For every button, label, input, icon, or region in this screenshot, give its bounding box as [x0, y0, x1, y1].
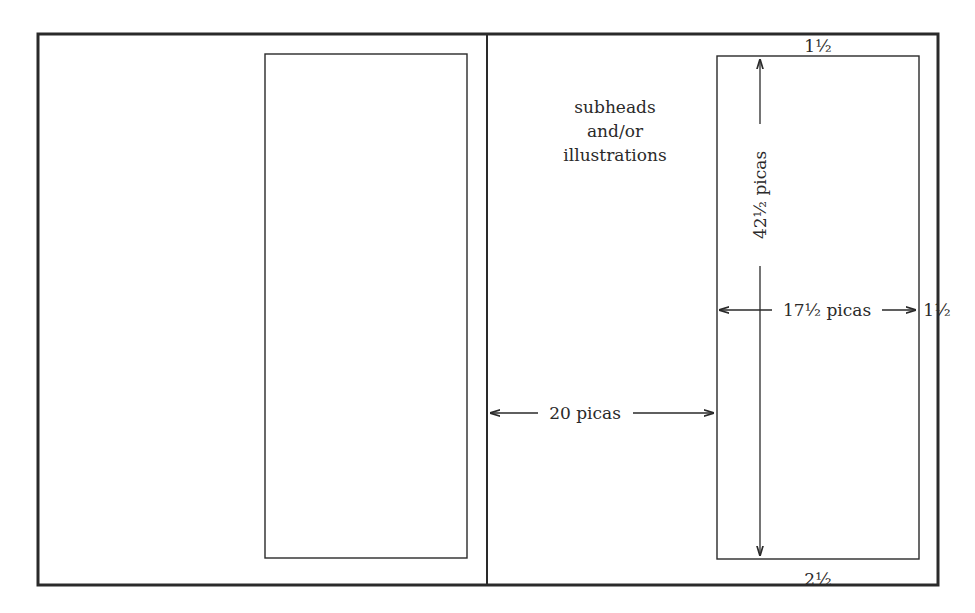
subheads-label-line1: subheads: [574, 97, 655, 117]
page-layout-diagram: subheads and/or illustrations 1½ 2½ 1½ 4…: [0, 0, 975, 613]
subheads-label-line2: and/or: [587, 121, 644, 141]
text-height-label: 42½ picas: [750, 151, 770, 239]
inner-margin-label: 20 picas: [549, 403, 621, 423]
outer-margin-label: 1½: [923, 300, 950, 320]
left-text-block: [265, 54, 467, 558]
subheads-label-line3: illustrations: [563, 145, 666, 165]
top-margin-label: 1½: [804, 36, 831, 56]
bottom-margin-label: 2½: [804, 569, 831, 589]
text-width-label: 17½ picas: [783, 300, 871, 320]
